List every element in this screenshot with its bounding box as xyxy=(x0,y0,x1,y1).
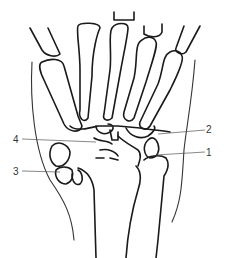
label-1: 1 xyxy=(206,147,212,158)
label-4: 4 xyxy=(13,134,19,145)
metacarpals xyxy=(30,12,200,131)
carpal-bones xyxy=(50,124,170,185)
forearm-bones xyxy=(78,156,168,258)
label-3-group: 3 xyxy=(13,166,60,177)
label-3: 3 xyxy=(13,166,19,177)
label-2-group: 2 xyxy=(158,124,212,135)
wrist-diagram: 2 1 4 3 xyxy=(0,0,230,258)
skin-outline xyxy=(32,60,195,240)
label-2: 2 xyxy=(206,124,212,135)
